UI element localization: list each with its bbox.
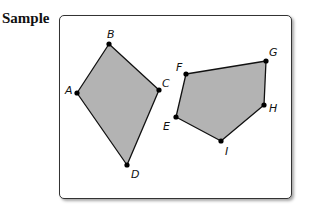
vertex-label-I: I: [225, 145, 228, 158]
vertex-I: [218, 138, 223, 143]
vertex-D: [124, 162, 129, 167]
vertex-label-H: H: [269, 102, 277, 115]
vertex-H: [261, 102, 266, 107]
vertex-label-A: A: [64, 84, 73, 97]
vertex-label-C: C: [162, 77, 170, 90]
pentagon-EFGHI-shape: [176, 61, 266, 141]
vertex-C: [156, 87, 161, 92]
vertex-G: [263, 58, 268, 63]
vertex-A: [74, 90, 79, 95]
polygon-figure: ABCDFGHIE: [0, 0, 314, 222]
vertex-label-D: D: [131, 168, 139, 181]
quadrilateral-ABCD-shape: [77, 44, 159, 165]
vertex-label-F: F: [176, 61, 183, 74]
vertex-B: [106, 41, 111, 46]
quadrilateral-ABCD: ABCD: [64, 28, 170, 181]
vertex-label-G: G: [269, 46, 278, 59]
pentagon-EFGHI: FGHIE: [163, 46, 278, 158]
vertex-label-B: B: [107, 28, 115, 41]
vertex-E: [173, 114, 178, 119]
vertex-label-E: E: [163, 120, 170, 133]
vertex-F: [183, 71, 188, 76]
